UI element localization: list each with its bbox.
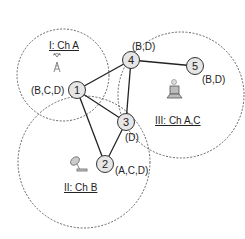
svg-text:2: 2 <box>102 158 108 170</box>
node-3-channels: (D) <box>125 132 139 143</box>
node-4[interactable]: 4 <box>123 52 140 69</box>
node-5[interactable]: 5 <box>187 58 204 75</box>
node-2[interactable]: 2 <box>97 156 114 173</box>
edges <box>77 60 195 164</box>
svg-text:1: 1 <box>74 84 80 96</box>
laptop-icon <box>167 80 182 99</box>
svg-text:5: 5 <box>192 60 198 72</box>
edge-1-4 <box>77 60 131 90</box>
edge-1-2 <box>77 90 105 164</box>
edge-4-5 <box>131 60 195 66</box>
svg-text:4: 4 <box>128 54 134 66</box>
network-diagram: I: Ch A II: Ch B III: Ch A,C 1 2 3 4 5 (… <box>0 0 245 239</box>
region-I-label: I: Ch A <box>49 40 79 51</box>
node-3[interactable]: 3 <box>118 114 135 131</box>
cell-tower-icon <box>53 53 61 72</box>
node-1[interactable]: 1 <box>69 82 86 99</box>
node-4-channels: (B,D) <box>132 41 155 52</box>
region-III-label: III: Ch A,C <box>155 115 201 126</box>
node-1-channels: (B,C,D) <box>31 85 64 96</box>
svg-text:3: 3 <box>123 116 129 128</box>
region-II-label: II: Ch B <box>64 182 98 193</box>
satellite-dish-icon <box>69 155 87 171</box>
node-2-channels: (A,C,D) <box>115 165 148 176</box>
node-5-channels: (B,D) <box>202 74 225 85</box>
